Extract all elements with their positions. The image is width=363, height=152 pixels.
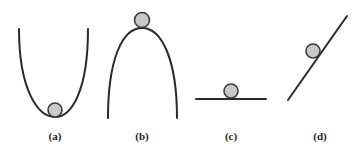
panel-a: (a) xyxy=(19,29,88,143)
ball xyxy=(224,84,238,98)
ball xyxy=(135,13,150,28)
panel-c: (c) xyxy=(196,84,266,143)
panel-label-b: (b) xyxy=(135,130,149,143)
panel-label-c: (c) xyxy=(225,130,238,143)
panel-b: (b) xyxy=(108,13,177,144)
panel-label-a: (a) xyxy=(49,130,62,143)
incline-line xyxy=(288,16,347,100)
hill-curve xyxy=(108,28,177,118)
equilibrium-diagram: (a) (b) (c) (d) xyxy=(0,0,363,152)
panel-label-d: (d) xyxy=(313,130,327,143)
ball xyxy=(48,103,62,117)
ball xyxy=(306,44,320,58)
panel-d: (d) xyxy=(288,16,347,143)
